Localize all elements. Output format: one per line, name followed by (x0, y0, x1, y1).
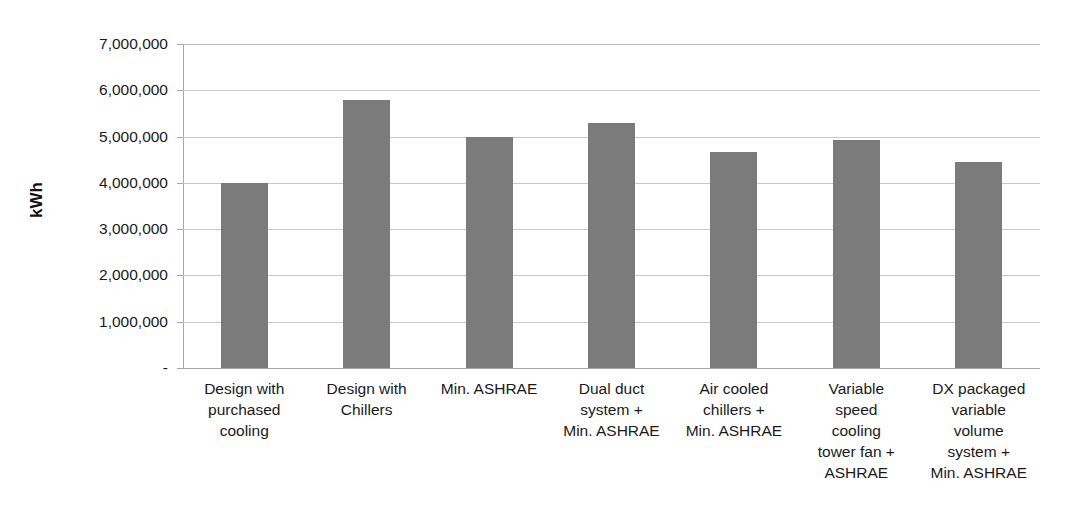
bar (955, 162, 1002, 368)
x-axis-label-line: cooling (184, 420, 304, 441)
x-axis-category-labels: Design withpurchasedcoolingDesign withCh… (183, 378, 1040, 518)
x-axis-label-line: cooling (796, 420, 916, 441)
y-axis-tick-label: 7,000,000 (99, 35, 168, 53)
x-axis-label-line: Min. ASHRAE (551, 420, 671, 441)
y-axis-tick-mark (177, 322, 183, 323)
y-axis-tick-mark (177, 275, 183, 276)
bar (710, 152, 757, 368)
y-axis-tick-mark (177, 183, 183, 184)
x-axis-category-label: Design withChillers (305, 378, 427, 518)
x-axis-label-line: Min. ASHRAE (674, 420, 794, 441)
bar (466, 137, 513, 368)
bar (588, 123, 635, 368)
x-axis-category-label: Dual ductsystem +Min. ASHRAE (550, 378, 672, 518)
bars-layer (183, 44, 1040, 368)
y-axis-tick-label: - (163, 359, 168, 377)
x-axis-label-line: Design with (306, 378, 426, 399)
y-axis-title: kWh (22, 150, 52, 250)
x-axis-category-label: Air cooledchillers +Min. ASHRAE (673, 378, 795, 518)
y-axis-tick-label: 6,000,000 (99, 81, 168, 99)
y-axis-title-text: kWh (27, 182, 47, 218)
bar (221, 183, 268, 368)
bar (343, 100, 390, 368)
x-axis-label-line: Variable (796, 378, 916, 399)
x-axis-label-line: speed (796, 399, 916, 420)
bar (833, 140, 880, 368)
x-axis-label-line: Min. ASHRAE (919, 462, 1039, 483)
y-axis-tick-labels: 7,000,0006,000,0005,000,0004,000,0003,00… (62, 36, 174, 376)
y-axis-tick-label: 4,000,000 (99, 174, 168, 192)
gridline (183, 368, 1040, 369)
x-axis-label-line: Air cooled (674, 378, 794, 399)
x-axis-label-line: Min. ASHRAE (429, 378, 549, 399)
x-axis-label-line: Chillers (306, 399, 426, 420)
x-axis-label-line: tower fan + (796, 441, 916, 462)
y-axis-tick-label: 3,000,000 (99, 220, 168, 238)
y-axis-tick-mark (177, 368, 183, 369)
x-axis-label-line: system + (919, 441, 1039, 462)
x-axis-label-line: system + (551, 399, 671, 420)
x-axis-label-line: DX packaged (919, 378, 1039, 399)
x-axis-label-line: ASHRAE (796, 462, 916, 483)
x-axis-category-label: Min. ASHRAE (428, 378, 550, 518)
plot-area (183, 44, 1040, 368)
x-axis-label-line: variable (919, 399, 1039, 420)
bar-chart: kWh 7,000,0006,000,0005,000,0004,000,000… (0, 0, 1073, 523)
x-axis-category-label: DX packagedvariablevolumesystem +Min. AS… (918, 378, 1040, 518)
x-axis-label-line: volume (919, 420, 1039, 441)
x-axis-label-line: chillers + (674, 399, 794, 420)
y-axis-tick-mark (177, 44, 183, 45)
y-axis-tick-label: 2,000,000 (99, 266, 168, 284)
y-axis-tick-label: 5,000,000 (99, 128, 168, 146)
x-axis-label-line: Dual duct (551, 378, 671, 399)
y-axis-tick-mark (177, 229, 183, 230)
y-axis-tick-mark (177, 137, 183, 138)
y-axis-tick-mark (177, 90, 183, 91)
x-axis-label-line: Design with (184, 378, 304, 399)
y-axis-tick-label: 1,000,000 (99, 313, 168, 331)
x-axis-label-line: purchased (184, 399, 304, 420)
x-axis-category-label: Design withpurchasedcooling (183, 378, 305, 518)
x-axis-category-label: Variablespeedcoolingtower fan +ASHRAE (795, 378, 917, 518)
